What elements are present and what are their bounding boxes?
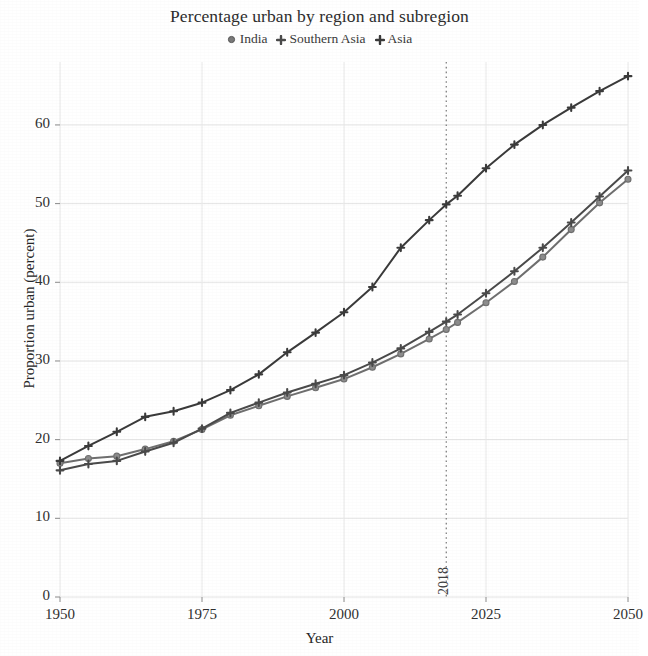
x-tick-label: 2000: [309, 606, 379, 623]
y-tick-label: 30: [4, 351, 50, 368]
x-tick-label: 2025: [451, 606, 521, 623]
y-tick-label: 20: [4, 430, 50, 447]
x-tick-label: 1975: [167, 606, 237, 623]
x-axis-label: Year: [0, 630, 639, 647]
y-tick-label: 50: [4, 194, 50, 211]
x-tick-label: 1950: [25, 606, 95, 623]
y-tick-label: 60: [4, 115, 50, 132]
y-tick-label: 10: [4, 508, 50, 525]
y-axis-label: Proportion urban (percent): [21, 214, 38, 404]
annotation-label-2018: 2018: [436, 567, 452, 595]
y-tick-label: 40: [4, 272, 50, 289]
x-tick-label: 2050: [593, 606, 648, 623]
y-tick-label: 0: [4, 587, 50, 604]
